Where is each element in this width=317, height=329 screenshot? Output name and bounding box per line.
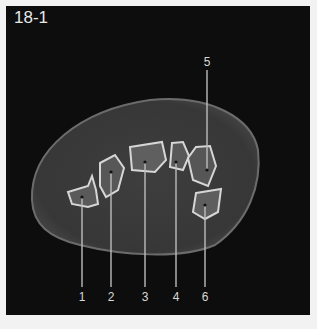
callout-label-2: 2 [108,290,115,304]
callout-label-4: 4 [173,290,180,304]
callout-label-1: 1 [79,290,86,304]
callout-label-6: 6 [202,290,209,304]
callout-label-3: 3 [142,290,149,304]
callout-label-5: 5 [204,55,211,69]
ct-scan-illustration: 1 2 3 4 5 6 [0,0,317,329]
